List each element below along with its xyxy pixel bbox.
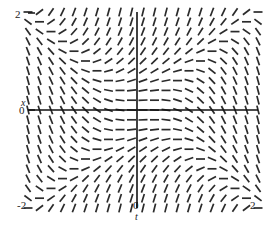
slope-mark <box>245 57 249 65</box>
slope-field-plot <box>0 0 273 227</box>
slope-mark <box>139 79 147 82</box>
slope-mark <box>118 184 121 192</box>
slope-mark <box>105 48 111 55</box>
slope-mark <box>95 184 99 192</box>
slope-mark <box>47 196 54 201</box>
slope-mark <box>153 184 156 192</box>
slope-mark <box>221 146 226 153</box>
slope-mark <box>173 148 182 150</box>
slope-mark <box>128 58 135 64</box>
slope-mark <box>152 175 156 183</box>
slope-mark <box>93 79 102 81</box>
slope-mark <box>104 90 113 92</box>
slope-mark <box>37 175 43 182</box>
slope-mark <box>26 47 29 55</box>
slope-mark <box>188 8 191 17</box>
slope-mark <box>116 100 125 101</box>
slope-mark <box>208 39 216 43</box>
slope-mark <box>105 59 113 64</box>
slope-mark <box>187 28 191 36</box>
slope-mark <box>49 67 53 75</box>
slope-mark <box>95 28 99 36</box>
slope-mark <box>141 27 144 35</box>
slope-mark <box>38 67 41 75</box>
slope-mark <box>244 38 250 45</box>
slope-mark <box>93 128 101 132</box>
slope-mark <box>24 19 31 24</box>
slope-mark <box>82 78 90 83</box>
slope-mark <box>118 37 122 45</box>
slope-mark <box>60 67 65 74</box>
slope-mark <box>209 28 215 35</box>
slope-mark <box>243 205 250 210</box>
slope-mark <box>141 37 145 45</box>
slope-mark <box>173 129 182 131</box>
slope-mark <box>162 119 171 120</box>
slope-mark <box>139 129 148 130</box>
slope-mark <box>221 126 225 134</box>
slope-mark <box>175 38 180 46</box>
slope-mark <box>82 175 89 181</box>
slope-mark <box>61 8 65 16</box>
slope-mark <box>59 156 66 162</box>
slope-mark <box>49 135 53 143</box>
slope-mark <box>27 145 30 154</box>
slope-mark <box>104 118 113 121</box>
slope-mark <box>116 119 125 120</box>
slope-mark <box>61 204 65 212</box>
slope-mark <box>220 58 227 64</box>
slope-mark <box>36 29 43 34</box>
slope-mark <box>96 8 99 17</box>
slope-mark <box>27 115 29 124</box>
slope-mark <box>37 165 41 173</box>
slope-mark <box>197 38 204 44</box>
slope-mark <box>221 136 226 144</box>
slope-mark <box>119 194 122 203</box>
slope-mark <box>245 145 248 153</box>
slope-mark <box>243 186 250 191</box>
slope-mark <box>139 68 147 73</box>
slope-mark <box>209 185 215 192</box>
slope-field-figure: 2 0 -2 0 2 x t <box>0 0 273 227</box>
slope-mark <box>70 59 78 63</box>
slope-mark <box>49 96 52 104</box>
slope-mark <box>197 78 205 83</box>
slope-mark <box>81 49 89 53</box>
slope-mark <box>72 194 76 202</box>
slope-mark <box>105 166 111 173</box>
x-axis-title: t <box>135 212 138 222</box>
slope-mark <box>84 194 88 202</box>
slope-mark <box>163 58 170 64</box>
slope-mark <box>130 18 133 27</box>
slope-mark <box>152 165 157 172</box>
slope-mark <box>37 47 41 55</box>
slope-mark <box>197 175 204 181</box>
slope-mark <box>185 138 194 140</box>
slope-mark <box>127 90 136 91</box>
slope-mark <box>197 127 204 133</box>
slope-mark <box>116 80 125 82</box>
slope-mark <box>153 204 155 213</box>
slope-mark <box>26 37 30 45</box>
slope-mark <box>257 96 259 105</box>
slope-mark <box>233 145 237 153</box>
slope-mark <box>257 76 259 85</box>
slope-mark <box>174 59 182 64</box>
slope-mark <box>164 184 167 192</box>
slope-mark <box>60 18 66 25</box>
slope-mark <box>70 177 78 181</box>
slope-mark <box>174 166 180 173</box>
slope-mark <box>164 27 167 35</box>
slope-mark <box>233 67 237 75</box>
slope-mark <box>208 157 216 161</box>
slope-mark <box>243 9 250 14</box>
slope-mark <box>84 204 87 213</box>
slope-mark <box>47 39 55 44</box>
slope-mark <box>59 58 66 64</box>
slope-mark <box>257 125 259 134</box>
slope-mark <box>220 29 228 34</box>
slope-mark <box>153 27 156 35</box>
slope-mark <box>71 97 76 104</box>
slope-mark <box>107 18 110 27</box>
slope-mark <box>119 18 122 27</box>
